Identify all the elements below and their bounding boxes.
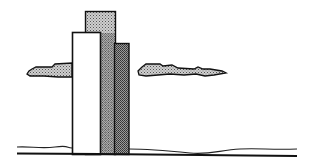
skyline-illustration [0,0,314,167]
left-cloud [27,63,72,77]
horizon-line [17,146,297,153]
building-right-dark [115,44,130,155]
building-front-white [73,33,101,155]
right-cloud [138,64,226,76]
ground-line [17,154,297,157]
